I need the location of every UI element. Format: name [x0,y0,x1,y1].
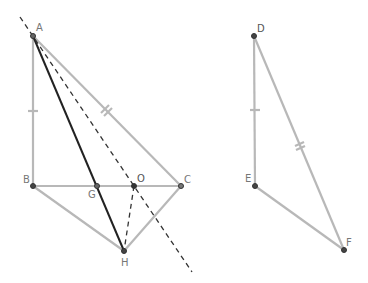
point-B [31,184,36,189]
label-E: E [245,173,251,184]
label-D: D [257,23,265,34]
point-C [179,184,184,189]
label-F: F [346,237,352,248]
diagram-canvas: A B G O C H D E F [0,0,368,283]
dashed-line [20,17,192,272]
label-O: O [137,173,145,184]
geometry-diagram: A B G O C H D E F [0,0,368,283]
point-E [253,184,258,189]
gray-segments [28,36,344,251]
segment-AC [33,36,181,186]
point-G [95,184,100,189]
label-A: A [36,22,43,33]
label-C: C [184,174,191,185]
point-H [122,249,127,254]
point-O [132,184,137,189]
point-A [31,34,36,39]
point-F [342,248,347,253]
point-D [252,34,257,39]
label-H: H [121,257,129,268]
label-B: B [23,174,30,185]
label-G: G [88,189,96,200]
